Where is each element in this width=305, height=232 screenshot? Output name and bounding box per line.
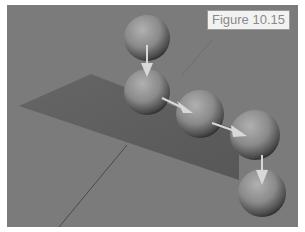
sphere-3 bbox=[176, 90, 224, 138]
scene-illustration bbox=[7, 5, 298, 227]
grid-line bbox=[182, 40, 212, 75]
figure-label: Figure 10.15 bbox=[207, 10, 290, 30]
grid-line bbox=[59, 145, 127, 227]
figure-render: Figure 10.15 bbox=[7, 5, 298, 227]
